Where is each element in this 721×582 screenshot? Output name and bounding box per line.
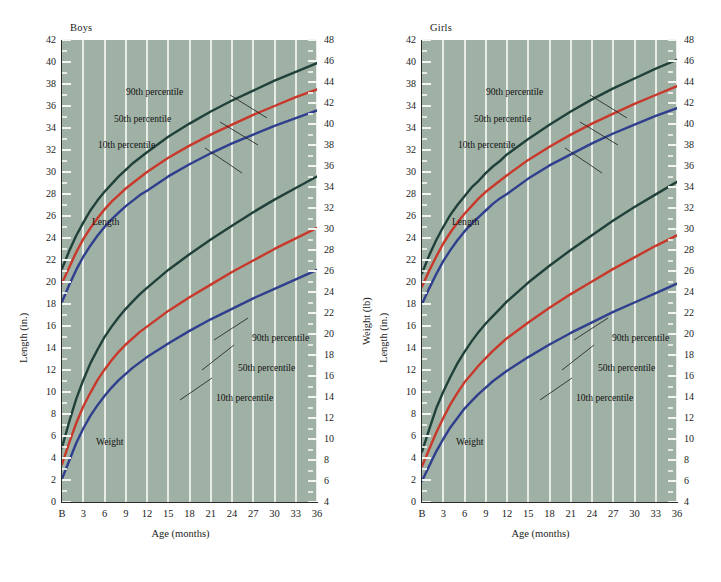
y-left-tick-label: 30 xyxy=(388,166,416,177)
y-left-tick-label: 22 xyxy=(388,254,416,265)
left-tick-strip-girls xyxy=(422,40,431,502)
x-tick-label: 36 xyxy=(663,508,691,519)
y-right-tick-label: 22 xyxy=(684,307,710,318)
y-right-tick-label: 40 xyxy=(684,118,710,129)
y-left-tick-label: 24 xyxy=(28,232,56,243)
y-right-tick-label: 30 xyxy=(324,223,350,234)
right-tick-strip-girls xyxy=(668,40,677,502)
y-left-tick-label: 18 xyxy=(28,298,56,309)
annotation-leader xyxy=(540,378,572,400)
y-right-tick-label: 46 xyxy=(684,55,710,66)
annotation-leader xyxy=(205,148,242,173)
left-tick-strip-boys xyxy=(62,40,71,502)
y-left-tick-label: 38 xyxy=(28,78,56,89)
length-p90-label: 90th percentile xyxy=(126,86,183,97)
weight-curve-50th xyxy=(422,235,677,466)
y-right-tick-label: 38 xyxy=(324,139,350,150)
y-right-tick-label: 34 xyxy=(684,181,710,192)
y-left-tick-label: 40 xyxy=(28,56,56,67)
y-right-tick-label: 32 xyxy=(684,202,710,213)
y-right-tick-label: 36 xyxy=(324,160,350,171)
y-right-tick-label: 16 xyxy=(324,370,350,381)
annotation-leader xyxy=(590,95,627,118)
y-left-tick-label: 32 xyxy=(388,144,416,155)
y-right-tick-label: 16 xyxy=(684,370,710,381)
y-left-tick-label: 14 xyxy=(388,342,416,353)
y-left-tick-label: 34 xyxy=(388,122,416,133)
y-left-tick-label: 42 xyxy=(28,34,56,45)
curves-girls xyxy=(422,40,677,502)
y-right-tick-label: 20 xyxy=(684,328,710,339)
length-p90-label: 90th percentile xyxy=(486,86,543,97)
right-tick-strip-boys xyxy=(308,40,317,502)
y-left-tick-label: 36 xyxy=(28,100,56,111)
y-right-tick-label: 38 xyxy=(684,139,710,150)
y-left-tick-label: 0 xyxy=(388,496,416,507)
curves-boys xyxy=(62,40,317,502)
length-group-label: Length xyxy=(92,216,119,227)
y-left-tick-label: 2 xyxy=(28,474,56,485)
plot-area-girls: 90th percentile50th percentile10th perce… xyxy=(422,40,677,502)
y-left-tick-label: 4 xyxy=(388,452,416,463)
y-right-tick-label: 48 xyxy=(684,34,710,45)
weight-p90-label: 90th percentile xyxy=(612,332,669,343)
y-left-tick-label: 18 xyxy=(388,298,416,309)
y-left-axis-title-boys: Length (in.) xyxy=(18,313,29,363)
length-curve-10th xyxy=(422,108,677,304)
annotation-leader xyxy=(565,148,602,173)
y-right-tick-label: 26 xyxy=(324,265,350,276)
annotation-leader xyxy=(180,378,212,400)
length-curve-90th xyxy=(62,63,317,269)
y-right-tick-label: 48 xyxy=(324,34,350,45)
y-left-tick-label: 16 xyxy=(28,320,56,331)
weight-group-label: Weight xyxy=(96,436,123,447)
weight-curve-10th xyxy=(422,284,677,481)
y-right-tick-label: 32 xyxy=(324,202,350,213)
y-right-tick-label: 18 xyxy=(324,349,350,360)
length-p50-label: 50th percentile xyxy=(474,113,531,124)
panel-girls: Girls90th percentile50th percentile10th … xyxy=(360,0,720,582)
y-right-tick-label: 44 xyxy=(684,76,710,87)
y-right-tick-label: 14 xyxy=(324,391,350,402)
x-axis-title-girls: Age (months) xyxy=(512,528,570,539)
x-tick-label: 36 xyxy=(303,508,331,519)
y-right-tick-label: 28 xyxy=(684,244,710,255)
y-right-tick-label: 40 xyxy=(324,118,350,129)
y-left-tick-label: 20 xyxy=(28,276,56,287)
y-right-tick-label: 46 xyxy=(324,55,350,66)
y-right-tick-label: 4 xyxy=(684,496,710,507)
y-right-tick-label: 10 xyxy=(684,433,710,444)
y-right-tick-label: 4 xyxy=(324,496,350,507)
weight-group-label: Weight xyxy=(456,436,483,447)
y-right-tick-label: 6 xyxy=(324,475,350,486)
y-right-tick-label: 12 xyxy=(684,412,710,423)
y-left-tick-label: 12 xyxy=(388,364,416,375)
y-left-tick-label: 42 xyxy=(388,34,416,45)
y-left-tick-label: 12 xyxy=(28,364,56,375)
y-left-tick-label: 8 xyxy=(28,408,56,419)
annotation-leader xyxy=(202,345,234,370)
y-right-tick-label: 18 xyxy=(684,349,710,360)
axis-line-left-girls xyxy=(421,40,422,503)
y-right-tick-label: 14 xyxy=(684,391,710,402)
y-left-tick-label: 10 xyxy=(28,386,56,397)
y-right-tick-label: 42 xyxy=(684,97,710,108)
y-right-tick-label: 20 xyxy=(324,328,350,339)
y-left-tick-label: 24 xyxy=(388,232,416,243)
y-right-tick-label: 34 xyxy=(324,181,350,192)
y-right-tick-label: 8 xyxy=(684,454,710,465)
panel-boys: Boys90th percentile50th percentile10th p… xyxy=(0,0,360,582)
y-left-tick-label: 34 xyxy=(28,122,56,133)
y-left-tick-label: 20 xyxy=(388,276,416,287)
y-right-tick-label: 24 xyxy=(684,286,710,297)
y-left-tick-label: 6 xyxy=(28,430,56,441)
weight-p90-label: 90th percentile xyxy=(252,332,309,343)
weight-p10-label: 10th percentile xyxy=(576,392,633,403)
y-left-tick-label: 16 xyxy=(388,320,416,331)
length-p10-label: 10th percentile xyxy=(98,139,155,150)
y-right-tick-label: 36 xyxy=(684,160,710,171)
y-right-tick-label: 6 xyxy=(684,475,710,486)
weight-p10-label: 10th percentile xyxy=(216,392,273,403)
weight-p50-label: 50th percentile xyxy=(238,362,295,373)
axis-line-bottom-boys xyxy=(61,502,318,503)
